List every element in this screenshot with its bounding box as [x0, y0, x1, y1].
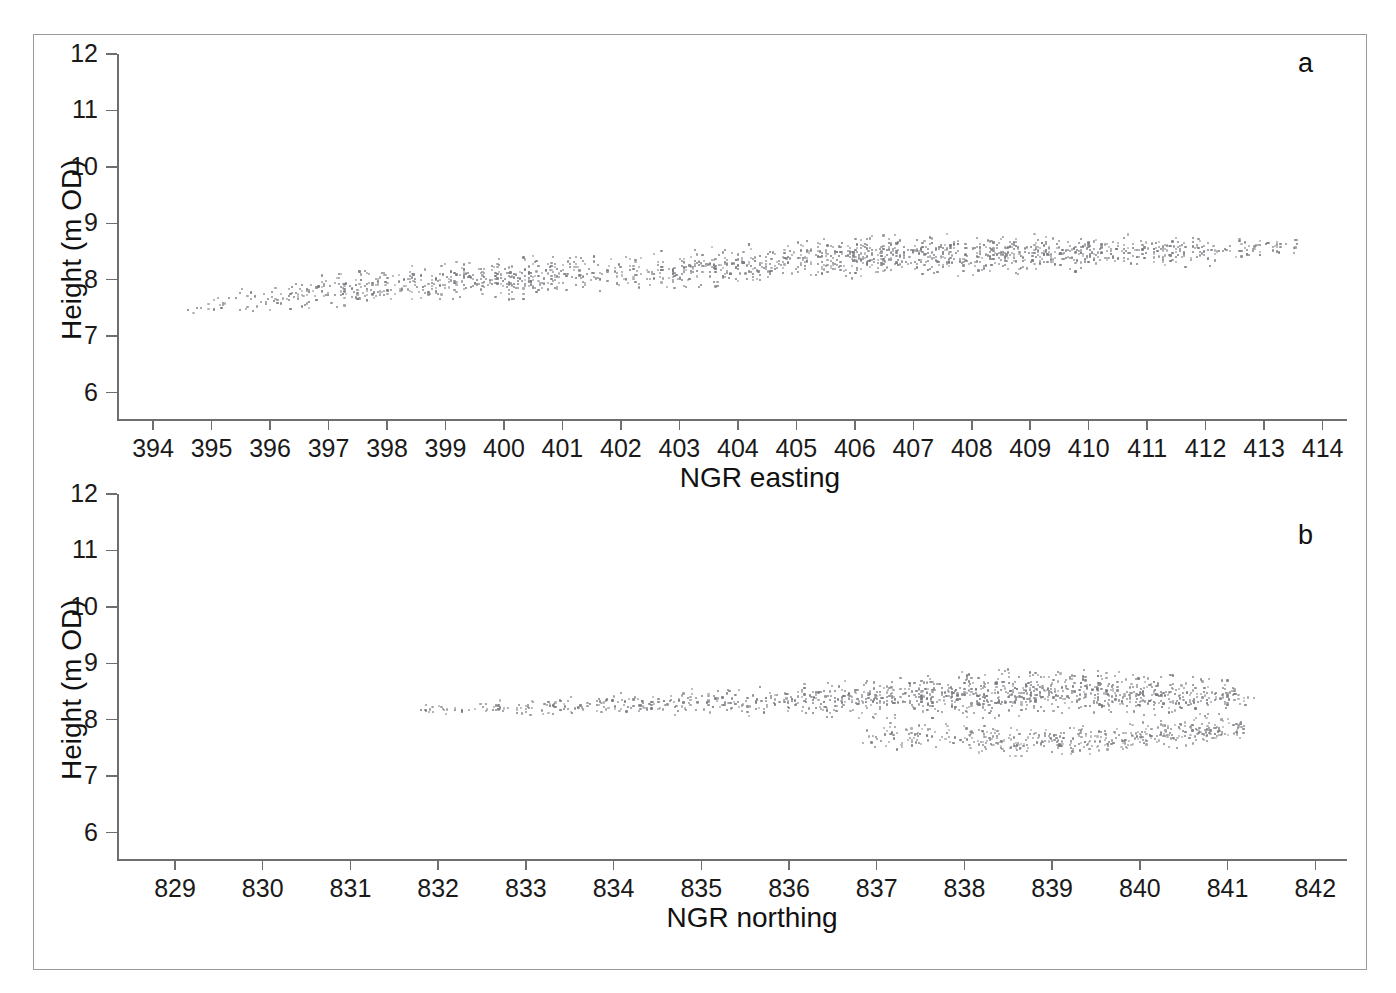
- x-tick-label-a: 401: [542, 436, 584, 461]
- y-axis-line-b: [117, 494, 119, 860]
- data-point: [921, 728, 923, 730]
- data-point: [1017, 247, 1019, 249]
- data-point: [685, 266, 687, 268]
- data-point: [923, 695, 925, 697]
- data-point: [547, 288, 549, 290]
- data-point: [746, 278, 748, 280]
- data-point: [973, 741, 975, 743]
- data-point: [1174, 724, 1176, 726]
- data-point: [454, 709, 456, 711]
- data-point: [866, 729, 868, 731]
- data-point: [797, 702, 799, 704]
- data-point: [517, 283, 519, 285]
- data-point: [522, 287, 524, 289]
- data-point: [992, 254, 994, 256]
- data-point: [528, 285, 530, 287]
- data-point: [299, 288, 301, 290]
- data-point: [657, 708, 659, 710]
- data-point: [431, 288, 433, 290]
- data-point: [962, 261, 964, 263]
- data-point: [701, 271, 703, 273]
- data-point: [662, 269, 664, 271]
- data-point: [920, 680, 922, 682]
- data-point: [455, 291, 457, 293]
- data-point: [1080, 249, 1082, 251]
- data-point: [737, 265, 739, 267]
- data-point: [1142, 699, 1144, 701]
- data-point: [1071, 256, 1073, 258]
- data-point: [605, 708, 607, 710]
- data-point: [1100, 251, 1102, 253]
- data-point: [894, 702, 896, 704]
- data-point: [944, 257, 946, 259]
- data-point: [673, 267, 675, 269]
- data-point: [845, 269, 847, 271]
- data-point: [192, 312, 194, 314]
- data-point: [1033, 705, 1035, 707]
- data-point: [543, 703, 545, 705]
- data-point: [435, 287, 437, 289]
- data-point: [924, 724, 926, 726]
- data-point: [1080, 686, 1082, 688]
- data-point: [558, 276, 560, 278]
- data-point: [757, 270, 759, 272]
- data-point: [498, 258, 500, 260]
- data-point: [691, 688, 693, 690]
- data-point: [1069, 727, 1071, 729]
- data-point: [835, 705, 837, 707]
- data-point: [1153, 701, 1155, 703]
- data-point: [334, 294, 336, 296]
- data-point: [860, 247, 862, 249]
- data-point: [1054, 251, 1056, 253]
- data-point: [1072, 738, 1074, 740]
- data-point: [1135, 732, 1137, 734]
- data-point: [1028, 252, 1030, 254]
- data-point: [491, 283, 493, 285]
- data-point: [916, 739, 918, 741]
- data-point: [1090, 731, 1092, 733]
- data-point: [1194, 735, 1196, 737]
- data-point: [966, 716, 968, 718]
- data-point: [1002, 681, 1004, 683]
- data-point: [1229, 250, 1231, 252]
- data-point: [827, 695, 829, 697]
- data-point: [312, 290, 314, 292]
- data-point: [428, 711, 430, 713]
- data-point: [383, 294, 385, 296]
- data-point: [714, 265, 716, 267]
- data-point: [429, 293, 431, 295]
- data-point: [755, 708, 757, 710]
- data-point: [1141, 731, 1143, 733]
- data-point: [1168, 698, 1170, 700]
- data-point: [1035, 256, 1037, 258]
- data-point: [1020, 755, 1022, 757]
- data-point: [577, 266, 579, 268]
- data-point: [1034, 694, 1036, 696]
- data-point: [1178, 702, 1180, 704]
- data-point: [1272, 249, 1274, 251]
- data-point: [874, 746, 876, 748]
- data-point: [905, 729, 907, 731]
- data-point: [1161, 706, 1163, 708]
- data-point: [383, 290, 385, 292]
- data-point: [1226, 679, 1228, 681]
- data-point: [804, 268, 806, 270]
- data-point: [1276, 243, 1278, 245]
- data-point: [1002, 265, 1004, 267]
- data-point: [1138, 249, 1140, 251]
- data-point: [1143, 742, 1145, 744]
- data-point: [1037, 737, 1039, 739]
- data-point: [399, 288, 401, 290]
- data-point: [1141, 736, 1143, 738]
- data-point: [219, 304, 221, 306]
- data-point: [1128, 740, 1130, 742]
- data-point: [1226, 692, 1228, 694]
- data-point: [689, 696, 691, 698]
- data-point: [607, 707, 609, 709]
- data-point: [1204, 694, 1206, 696]
- data-point: [549, 269, 551, 271]
- data-point: [1154, 689, 1156, 691]
- data-point: [677, 710, 679, 712]
- data-point: [1064, 702, 1066, 704]
- data-point: [1073, 259, 1075, 261]
